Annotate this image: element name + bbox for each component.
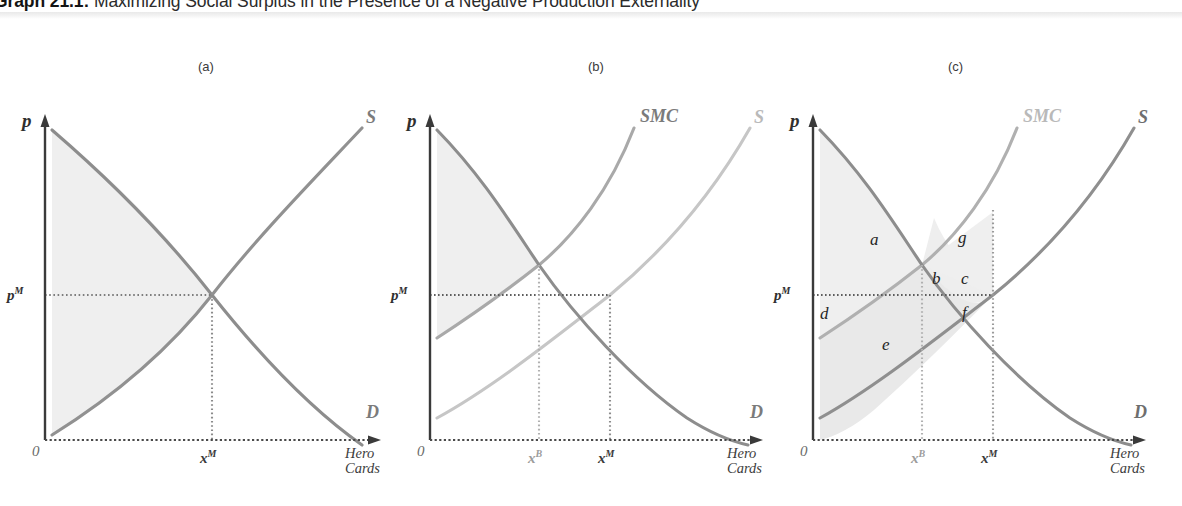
caption-divider	[0, 12, 1182, 19]
x-market-base: x	[200, 450, 208, 466]
x-axis-label-line2: Cards	[1110, 461, 1145, 476]
y-axis-arrow	[426, 114, 435, 127]
region-label-a: a	[870, 230, 879, 250]
y-axis-label: p	[407, 111, 417, 130]
region-label-d: d	[820, 304, 829, 324]
x-market-sup: M	[606, 448, 615, 459]
price-tick-base: p	[774, 287, 782, 303]
x-axis-label-line1: Hero	[345, 446, 380, 461]
price-tick-label: pM	[7, 286, 23, 303]
x-axis-label: Hero Cards	[727, 446, 762, 476]
panel-letter-c: (c)	[948, 59, 963, 74]
region-label-b: b	[932, 269, 941, 289]
origin-label: 0	[32, 444, 40, 459]
x-best-sup: B	[919, 448, 926, 459]
price-tick-label: pM	[774, 286, 790, 303]
x-best-base: x	[911, 450, 919, 466]
price-tick-label: pM	[391, 286, 407, 303]
x-axis-label: Hero Cards	[1110, 446, 1145, 476]
x-best-tick-label: xB	[911, 449, 925, 466]
y-axis-label: p	[790, 111, 800, 130]
x-best-tick-label: xB	[528, 449, 542, 466]
region-label-c: c	[961, 269, 969, 289]
panel-b-surplus-shading	[437, 130, 539, 338]
price-tick-sup: M	[15, 285, 24, 296]
x-axis-label-line2: Cards	[345, 461, 380, 476]
origin-label: 0	[800, 444, 808, 459]
x-market-sup: M	[208, 448, 217, 459]
panel-social-optimum-surplus: p pM 0 xB xM SMC S D Hero Cards	[382, 100, 772, 490]
smc-curve-label: SMC	[1023, 107, 1061, 125]
price-tick-sup: M	[399, 285, 408, 296]
panel-c-plot	[762, 100, 1182, 490]
region-label-g: g	[958, 228, 967, 248]
x-axis-label-line2: Cards	[727, 461, 762, 476]
y-axis-arrow	[809, 114, 818, 127]
region-label-e: e	[882, 335, 890, 355]
demand-curve-label: D	[1134, 403, 1147, 421]
x-axis-label: Hero Cards	[345, 446, 380, 476]
demand-curve-label: D	[366, 403, 379, 421]
x-market-tick-label: xM	[981, 449, 997, 466]
y-axis-arrow	[41, 114, 50, 127]
x-market-tick-label: xM	[200, 449, 216, 466]
figure-caption: Graph 21.1: Maximizing Social Surplus in…	[0, 0, 700, 12]
x-market-base: x	[598, 450, 606, 466]
region-label-f: f	[962, 303, 967, 323]
panel-b-plot	[382, 100, 772, 490]
panel-letter-b: (b)	[588, 59, 604, 74]
x-axis-arrow	[1133, 436, 1146, 445]
x-market-tick-label: xM	[598, 449, 614, 466]
panel-letter-a: (a)	[198, 59, 214, 74]
x-axis-label-line1: Hero	[727, 446, 762, 461]
y-axis-label: p	[22, 111, 32, 130]
supply-curve-label: S	[366, 108, 376, 126]
panel-surplus-decomposition: p pM 0 xB xM SMC S D Hero Cards a b c d …	[762, 100, 1152, 490]
panel-a-plot	[0, 100, 390, 490]
smc-curve-label: SMC	[640, 107, 678, 125]
x-best-base: x	[528, 450, 536, 466]
supply-curve-label: S	[1138, 108, 1148, 126]
origin-label: 0	[417, 444, 425, 459]
x-market-base: x	[981, 450, 989, 466]
panel-market-equilibrium-surplus: p pM 0 xM S D Hero Cards	[0, 100, 390, 490]
x-best-sup: B	[536, 448, 543, 459]
figure-caption-text: Maximizing Social Surplus in the Presenc…	[94, 0, 700, 11]
price-tick-base: p	[391, 287, 399, 303]
price-tick-base: p	[7, 287, 15, 303]
x-axis-label-line1: Hero	[1110, 446, 1145, 461]
figure-caption-bar: Graph 21.1: Maximizing Social Surplus in…	[0, 0, 1182, 19]
price-tick-sup: M	[782, 285, 791, 296]
figure-caption-number: Graph 21.1:	[0, 0, 89, 11]
x-market-sup: M	[989, 448, 998, 459]
x-axis-arrow	[368, 436, 381, 445]
panel-a-surplus-shading	[52, 130, 212, 435]
